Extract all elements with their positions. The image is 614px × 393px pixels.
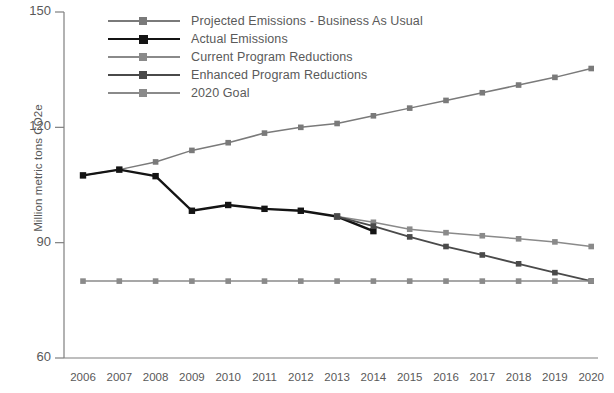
legend-item-label: Projected Emissions - Business As Usual — [191, 14, 423, 28]
legend-item-label: Actual Emissions — [191, 32, 288, 46]
legend-marker-icon — [139, 53, 147, 61]
legend-item-label: Enhanced Program Reductions — [191, 68, 367, 82]
series-marker — [480, 233, 486, 239]
series-marker — [262, 130, 268, 136]
series-marker — [225, 202, 231, 208]
series-marker — [298, 125, 304, 131]
series-marker — [371, 223, 377, 229]
series-marker — [443, 244, 449, 250]
x-tick-label: 2019 — [535, 371, 575, 383]
legend-swatch-icon — [108, 67, 180, 83]
series-marker — [480, 90, 486, 96]
series-marker — [552, 75, 558, 81]
series-marker — [334, 214, 340, 220]
series-marker — [371, 278, 377, 284]
series-marker — [298, 278, 304, 284]
series-marker — [225, 140, 231, 146]
series-marker — [516, 82, 522, 88]
x-tick-label: 2013 — [317, 371, 357, 383]
series-marker — [334, 278, 340, 284]
legend-swatch-icon — [108, 49, 180, 65]
x-tick-label: 2010 — [208, 371, 248, 383]
y-tick-label: 120 — [15, 118, 51, 133]
x-tick-label: 2018 — [499, 371, 539, 383]
x-tick-label: 2016 — [426, 371, 466, 383]
series-marker — [189, 208, 195, 214]
x-tick-label: 2006 — [63, 371, 103, 383]
legend-item[interactable]: Enhanced Program Reductions — [108, 66, 423, 84]
legend-marker-icon — [139, 17, 147, 25]
chart-legend: Projected Emissions - Business As UsualA… — [108, 12, 423, 102]
y-tick-label: 150 — [15, 3, 51, 18]
series-marker — [80, 278, 86, 284]
series-marker — [152, 173, 158, 179]
series-line — [83, 170, 373, 232]
series-marker — [371, 113, 377, 119]
series-marker — [407, 226, 413, 232]
y-tick-label: 60 — [15, 349, 51, 364]
x-tick-label: 2011 — [245, 371, 285, 383]
legend-marker-icon — [139, 71, 147, 79]
series-marker — [480, 278, 486, 284]
series-marker — [225, 278, 231, 284]
legend-swatch-icon — [108, 85, 180, 101]
series-marker — [516, 261, 522, 267]
series-marker — [407, 278, 413, 284]
series-marker — [552, 270, 558, 276]
series-marker — [443, 278, 449, 284]
series-marker — [189, 148, 195, 154]
legend-item-label: 2020 Goal — [191, 86, 250, 100]
legend-item-label: Current Program Reductions — [191, 50, 353, 64]
legend-marker-icon — [139, 35, 148, 44]
series-marker — [588, 66, 594, 72]
legend-swatch-icon — [108, 13, 180, 29]
series-marker — [552, 278, 558, 284]
series-marker — [552, 239, 558, 245]
legend-item[interactable]: Projected Emissions - Business As Usual — [108, 12, 423, 30]
series-marker — [153, 159, 159, 165]
x-tick-label: 2009 — [172, 371, 212, 383]
series-marker — [189, 278, 195, 284]
x-tick-label: 2020 — [571, 371, 611, 383]
series-marker — [480, 252, 486, 258]
series-marker — [298, 208, 304, 214]
series-marker — [116, 166, 122, 172]
series-marker — [588, 278, 594, 284]
series-marker — [262, 278, 268, 284]
emissions-line-chart: Million metric tons CO2e 6090120150 2006… — [0, 0, 614, 393]
x-tick-label: 2008 — [136, 371, 176, 383]
series-marker — [443, 98, 449, 104]
series-marker — [516, 278, 522, 284]
x-tick-label: 2012 — [281, 371, 321, 383]
legend-marker-icon — [139, 89, 147, 97]
legend-item[interactable]: Actual Emissions — [108, 30, 423, 48]
series-marker — [153, 278, 159, 284]
legend-swatch-icon — [108, 31, 180, 47]
series-marker — [588, 244, 594, 250]
x-tick-label: 2007 — [99, 371, 139, 383]
series-marker — [117, 278, 123, 284]
x-tick-label: 2017 — [462, 371, 502, 383]
series-marker — [407, 234, 413, 240]
y-tick-label: 90 — [15, 234, 51, 249]
series-marker — [334, 121, 340, 127]
legend-item[interactable]: Current Program Reductions — [108, 48, 423, 66]
x-tick-label: 2015 — [390, 371, 430, 383]
legend-item[interactable]: 2020 Goal — [108, 84, 423, 102]
series-marker — [516, 236, 522, 242]
x-tick-label: 2014 — [353, 371, 393, 383]
series-marker — [261, 206, 267, 212]
series-marker — [443, 230, 449, 236]
series-marker — [407, 105, 413, 111]
series-marker — [80, 172, 86, 178]
